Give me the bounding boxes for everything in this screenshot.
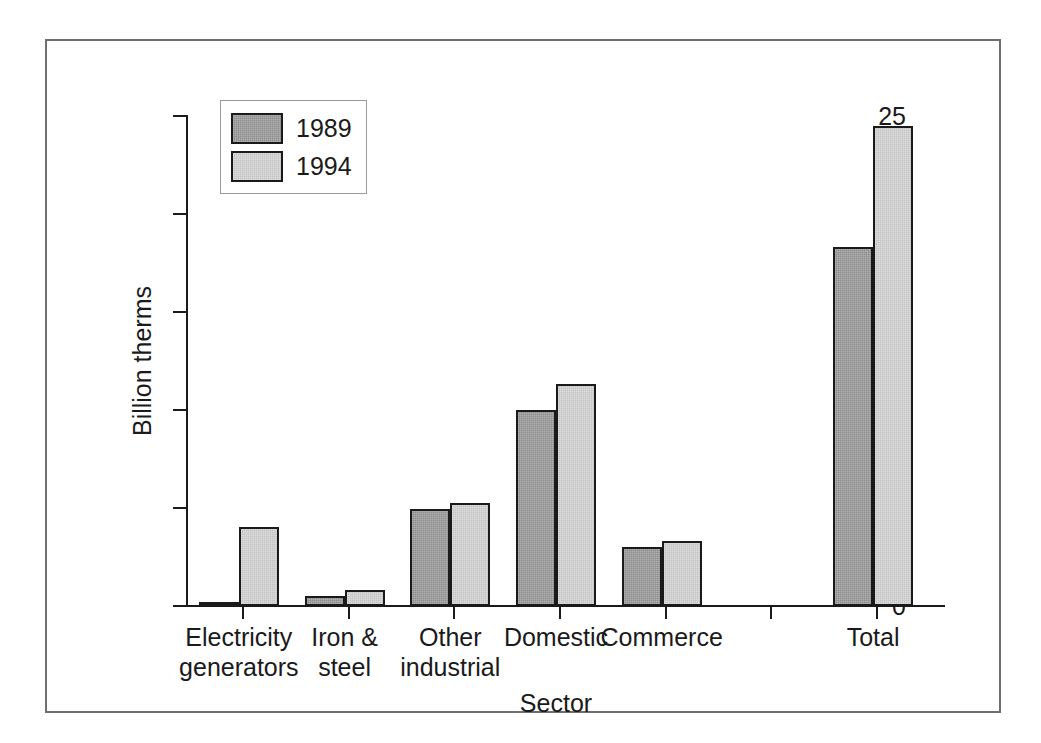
bar-1989 (516, 410, 556, 606)
y-axis-tick (173, 507, 186, 509)
x-axis-label: Sector (186, 689, 926, 718)
bar-1989 (199, 602, 239, 606)
legend-item-1994: 1994 (231, 147, 352, 185)
y-axis-label: Billion therms (128, 286, 157, 436)
bar-1989 (622, 547, 662, 606)
bar-1989 (410, 509, 450, 606)
x-axis-category-label: Commerce (597, 622, 727, 652)
bar-1989 (833, 247, 873, 606)
bar-1994 (345, 590, 385, 606)
y-axis-tick (173, 213, 186, 215)
x-axis-tick (559, 606, 561, 619)
legend-label-1989: 1989 (296, 116, 352, 141)
chart-legend: 1989 1994 (220, 100, 367, 194)
y-axis-tick (173, 311, 186, 313)
x-axis-tick (242, 606, 244, 619)
bar-1994 (450, 503, 490, 606)
legend-label-1994: 1994 (296, 154, 352, 179)
y-axis-tick (173, 409, 186, 411)
chart-figure: Billion therms 0510152025Electricity gen… (0, 0, 1041, 743)
x-axis-tick (453, 606, 455, 619)
legend-swatch-1994 (231, 151, 283, 182)
x-axis-tick (665, 606, 667, 619)
y-axis-tick-label: 25 (878, 104, 906, 129)
x-axis-tick (770, 606, 772, 619)
figure-frame: Billion therms 0510152025Electricity gen… (45, 39, 1001, 713)
bar-1994 (556, 384, 596, 606)
y-axis-tick (173, 115, 186, 117)
bar-1994 (662, 541, 702, 606)
bar-1989 (305, 596, 345, 606)
x-axis-tick (876, 606, 878, 619)
bar-1994 (873, 126, 913, 606)
x-axis-tick (348, 606, 350, 619)
legend-swatch-1989 (231, 113, 283, 144)
x-axis-category-label: Total (808, 622, 938, 652)
bar-1994 (239, 527, 279, 606)
y-axis-tick (173, 605, 186, 607)
legend-item-1989: 1989 (231, 109, 352, 147)
